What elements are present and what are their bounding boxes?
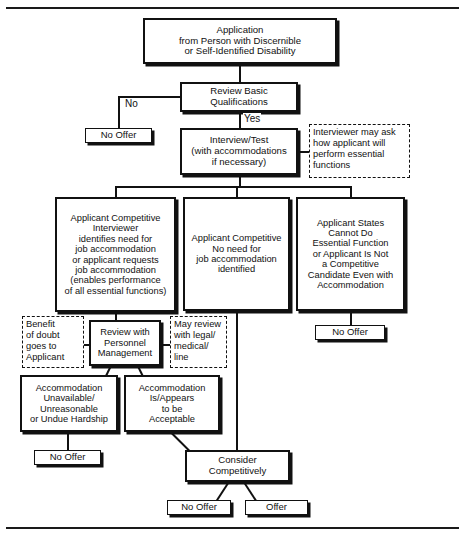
node-interview-line1: Interview/Test	[210, 134, 269, 145]
connector-review-no-vertical	[118, 96, 120, 128]
node-branch-right-line3: Essential Function	[313, 238, 389, 248]
node-application-line1: Application	[217, 24, 264, 35]
node-interview-line3: if necessary)	[212, 156, 266, 167]
node-review-basic-qualifications[interactable]: Review Basic Qualifications	[180, 82, 298, 112]
note-benefit-of-doubt: Benefit of doubt goes to Applicant	[22, 316, 84, 368]
node-review-basic-line2: Qualifications	[210, 96, 268, 107]
connector-distribution-bar	[115, 186, 351, 188]
node-unavailable-line3: Unreasonable	[40, 404, 98, 414]
node-interview-test[interactable]: Interview/Test (with accommodations if n…	[180, 128, 298, 175]
node-accommodation-acceptable[interactable]: Accommodation Is/Appears to be Acceptabl…	[124, 375, 220, 432]
node-branch-left-line3: identifies need for	[79, 234, 152, 244]
node-acceptable-line3: to be	[162, 404, 183, 414]
note-interviewer-may-ask: Interviewer may ask how applicant will p…	[309, 124, 410, 178]
node-branch-middle-line4: identified	[218, 264, 255, 274]
node-branch-left-line4: job accommodation	[75, 244, 156, 254]
connector-unavailable-to-no-offer	[67, 432, 69, 451]
note-interviewer-line2: how applicant will	[313, 138, 385, 148]
note-may-review-line3: medical/	[174, 341, 209, 351]
connector-personnel-to-review-note	[161, 344, 170, 346]
node-branch-left-line6: job accommodation	[75, 265, 156, 275]
node-branch-right-line4: or Applicant Is Not	[313, 249, 388, 259]
node-final-offer-label: Offer	[264, 502, 289, 513]
node-interview-line2: (with accommodations	[191, 145, 286, 156]
node-application[interactable]: Application from Person with Discernible…	[143, 18, 337, 64]
note-interviewer-line4: functions	[313, 160, 350, 170]
connector-middle-branch-to-consider	[236, 311, 238, 450]
node-branch-right-line5: a Competitive	[322, 259, 379, 269]
node-final-offer[interactable]: Offer	[245, 500, 308, 515]
connector-bar-to-middle-branch	[236, 186, 238, 197]
node-branch-left-competitive-needs-accommodation[interactable]: Applicant Competitive Interviewer identi…	[55, 197, 176, 312]
node-personnel-line1: Review with	[100, 327, 150, 337]
header-rule	[6, 7, 459, 9]
node-application-line3: or Self-Identified Disability	[185, 45, 296, 56]
node-no-offer-after-unavailable[interactable]: No Offer	[34, 450, 101, 465]
note-interviewer-line3: perform essential	[313, 149, 384, 159]
node-consider-line2: Competitively	[209, 465, 267, 476]
node-final-no-offer[interactable]: No Offer	[167, 500, 231, 515]
node-branch-right-line7: Accommodation	[317, 280, 384, 290]
footer-rule	[6, 527, 459, 529]
node-review-basic-line1: Review Basic	[210, 85, 268, 96]
node-personnel-line3: Management	[98, 348, 152, 358]
connector-bar-to-right-branch	[350, 186, 352, 197]
node-unavailable-line2: Unavailable/	[43, 393, 94, 403]
connector-interview-to-note	[298, 151, 309, 153]
node-acceptable-line1: Accommodation	[139, 383, 206, 393]
node-branch-left-line2: Interviewer	[93, 223, 138, 233]
node-final-no-offer-label: No Offer	[179, 502, 219, 513]
node-unavailable-line4: or Undue Hardship	[30, 414, 108, 424]
node-branch-right-line1: Applicant States	[317, 218, 384, 228]
note-benefit-line2: of doubt	[26, 330, 60, 340]
node-branch-left-line5: or applicant requests	[72, 255, 158, 265]
node-acceptable-line2: Is/Appears	[150, 393, 194, 403]
node-branch-left-line1: Applicant Competitive	[71, 213, 161, 223]
node-no-offer-right-label: No Offer	[330, 327, 370, 338]
node-branch-middle-no-accommodation-needed[interactable]: Applicant Competitive No need for job ac…	[183, 197, 290, 311]
node-consider-line1: Consider	[218, 454, 256, 465]
node-no-offer-right-branch[interactable]: No Offer	[315, 325, 385, 340]
note-benefit-line1: Benefit	[26, 319, 55, 329]
note-may-review-line4: line	[174, 352, 188, 362]
node-branch-middle-line2: No need for	[212, 244, 261, 254]
node-unavailable-line1: Accommodation	[36, 383, 103, 393]
node-acceptable-line4: Acceptable	[149, 414, 195, 424]
edge-label-yes: Yes	[243, 113, 261, 124]
connector-application-to-review	[239, 64, 241, 82]
connector-review-to-interview	[239, 112, 241, 128]
edge-label-no: No	[124, 98, 139, 109]
connector-right-branch-to-no-offer	[350, 311, 352, 325]
node-branch-middle-line1: Applicant Competitive	[192, 233, 282, 243]
node-branch-right-line2: Cannot Do	[328, 228, 372, 238]
node-application-line2: from Person with Discernible	[179, 35, 301, 46]
node-branch-right-line6: Candidate Even with	[308, 270, 393, 280]
node-accommodation-unavailable[interactable]: Accommodation Unavailable/ Unreasonable …	[20, 375, 118, 432]
connector-bar-to-left-branch	[115, 186, 117, 197]
scan-header-artifact	[0, 0, 465, 6]
node-branch-right-cannot-do-essential-function[interactable]: Applicant States Cannot Do Essential Fun…	[296, 197, 405, 311]
note-interviewer-line1: Interviewer may ask	[313, 127, 396, 137]
node-personnel-line2: Personnel	[104, 338, 146, 348]
node-no-offer-after-review[interactable]: No Offer	[85, 128, 152, 143]
node-no-offer-unavailable-label: No Offer	[48, 452, 88, 463]
flowchart-page: No Yes Application from Person with Disc…	[0, 0, 465, 545]
node-consider-competitively[interactable]: Consider Competitively	[185, 450, 290, 482]
node-review-with-personnel-management[interactable]: Review with Personnel Management	[89, 320, 161, 366]
note-may-review-with-legal: May review with legal/ medical/ line	[170, 316, 227, 368]
node-branch-left-line7: (enables performance	[70, 275, 160, 285]
node-branch-middle-line3: job accommodation	[196, 254, 277, 264]
node-no-offer-after-review-label: No Offer	[99, 130, 139, 141]
note-benefit-line4: Applicant	[26, 352, 64, 362]
note-may-review-line2: with legal/	[174, 330, 215, 340]
note-may-review-line1: May review	[174, 319, 221, 329]
node-branch-left-line8: of all essential functions)	[65, 286, 167, 296]
note-benefit-line3: goes to	[26, 341, 57, 351]
